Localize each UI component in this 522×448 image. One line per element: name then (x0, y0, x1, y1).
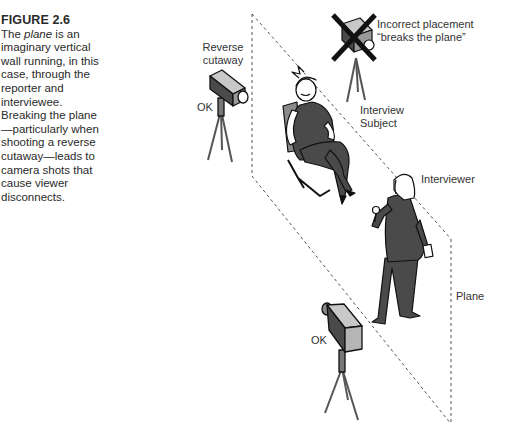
label-interview-subject-line2: Subject (360, 117, 404, 130)
camera-reverse-cutaway-icon (208, 70, 248, 162)
label-incorrect-line2: “breaks the plane” (377, 31, 474, 44)
label-plane: Plane (456, 290, 484, 303)
label-ok-bottom: OK (311, 334, 327, 347)
label-reverse-cutaway: Reverse cutaway (198, 41, 248, 67)
label-reverse-cutaway-line2: cutaway (198, 54, 248, 67)
camera-bottom-ok-icon (322, 303, 362, 420)
label-reverse-cutaway-line1: Reverse (198, 41, 248, 54)
label-interviewer: Interviewer (421, 173, 475, 186)
interviewer-figure (372, 174, 433, 324)
plane-diagram (0, 0, 522, 448)
label-interview-subject: Interview Subject (360, 104, 404, 130)
label-interview-subject-line1: Interview (360, 104, 404, 117)
interview-subject-figure (283, 66, 355, 204)
camera-incorrect-placement-icon (333, 15, 375, 102)
label-incorrect-placement: Incorrect placement “breaks the plane” (377, 18, 474, 44)
label-incorrect-line1: Incorrect placement (377, 18, 474, 31)
label-ok-top: OK (197, 101, 213, 114)
